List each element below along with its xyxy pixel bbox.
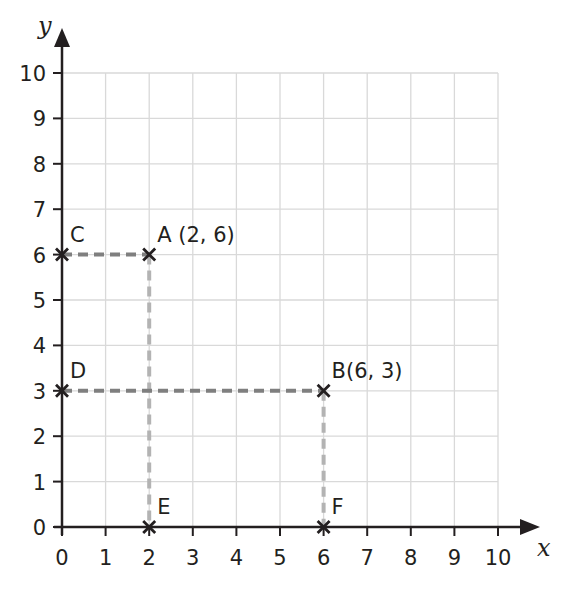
tick-labels: 012345678910012345678910xy <box>19 12 551 570</box>
y-tick-label: 7 <box>33 198 46 222</box>
x-tick-label: 7 <box>361 546 374 570</box>
y-tick-label: 3 <box>33 380 46 404</box>
y-tick-label: 6 <box>33 244 46 268</box>
x-tick-label: 3 <box>186 546 199 570</box>
point-label-A: A (2, 6) <box>157 223 235 247</box>
point-label-E: E <box>157 495 170 519</box>
x-tick-label: 5 <box>273 546 286 570</box>
y-axis-label: y <box>37 12 52 40</box>
grid-lines <box>62 73 498 527</box>
point-label-D: D <box>70 359 86 383</box>
y-tick-label: 4 <box>33 334 46 358</box>
y-tick-label: 2 <box>33 425 46 449</box>
point-label-B: B(6, 3) <box>332 359 403 383</box>
y-axis-arrow-icon <box>54 28 70 47</box>
x-tick-label: 9 <box>448 546 461 570</box>
y-tick-label: 5 <box>33 289 46 313</box>
y-tick-label: 0 <box>33 516 46 540</box>
x-axis-arrow-icon <box>520 519 540 535</box>
y-tick-label: 1 <box>33 471 46 495</box>
axes <box>53 28 540 536</box>
y-tick-label: 9 <box>33 107 46 131</box>
x-tick-label: 6 <box>317 546 330 570</box>
y-tick-label: 8 <box>33 153 46 177</box>
x-tick-label: 2 <box>143 546 156 570</box>
point-label-F: F <box>332 495 344 519</box>
plotted-points: A (2, 6)B(6, 3)CDEF <box>56 223 402 533</box>
y-tick-label: 10 <box>19 62 46 86</box>
x-tick-label: 0 <box>55 546 68 570</box>
x-tick-label: 8 <box>404 546 417 570</box>
x-tick-label: 10 <box>485 546 512 570</box>
x-axis-label: x <box>537 534 551 562</box>
point-label-C: C <box>70 223 85 247</box>
x-tick-label: 4 <box>230 546 243 570</box>
coordinate-grid-chart: 012345678910012345678910xy A (2, 6)B(6, … <box>0 0 564 589</box>
x-tick-label: 1 <box>99 546 112 570</box>
